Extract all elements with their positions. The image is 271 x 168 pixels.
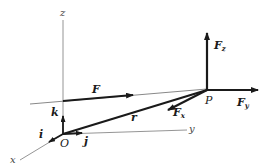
unit-vector-j-arrow (63, 133, 82, 134)
point-P-label: P (205, 95, 212, 106)
z-axis-label: z (60, 8, 65, 18)
vector-r-label: r (131, 112, 137, 123)
unit-vector-j-label: j (84, 136, 88, 147)
origin-label: O (60, 138, 69, 149)
unit-vector-k-label: k (51, 107, 59, 118)
vector-Fy-label: Fy (237, 97, 249, 109)
vector-Fz-label: Fz (214, 40, 226, 52)
unit-vector-i-label: i (39, 129, 43, 140)
axes (20, 20, 187, 160)
vector-Fx-label: Fx (173, 107, 185, 119)
vector-F-label: F (92, 84, 100, 95)
y-axis-label: y (189, 124, 195, 134)
force-vector-diagram: z y x O P k j i F r Fz Fy Fx (0, 0, 271, 168)
diagram-canvas (0, 0, 271, 168)
x-axis-label: x (10, 155, 16, 165)
